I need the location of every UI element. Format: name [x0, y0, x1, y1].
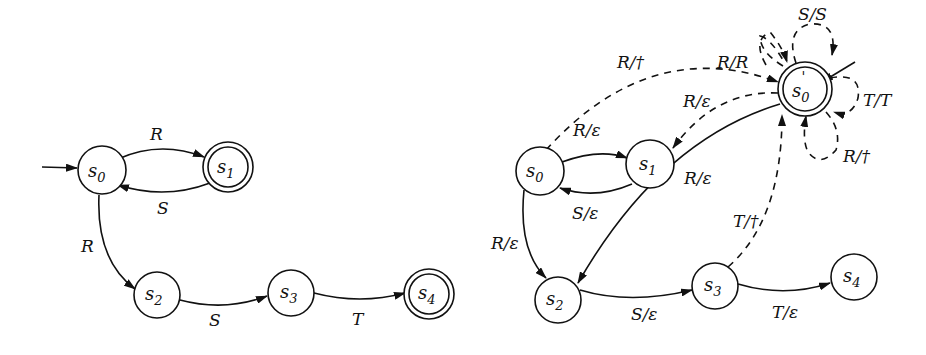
state-t-s0-prime: s0': [778, 62, 832, 116]
edge-t-s2-s3: [580, 290, 692, 298]
edge-label-s3-s4: T: [352, 309, 365, 329]
state-t-s1: s1: [626, 140, 674, 188]
state-s1: s1: [203, 142, 253, 192]
edge-label-loop-SS: S/S: [798, 4, 827, 24]
edge-s0-s1: [118, 149, 204, 159]
edge-label-loop-RR: R/R: [716, 52, 749, 72]
edge-label-s1-s0: S: [157, 198, 169, 218]
state-t-s3: s3: [692, 263, 738, 309]
state-s4: s4: [404, 269, 454, 319]
edge-t-s3-s4: [738, 283, 830, 291]
edge-t-s0-s1: [562, 154, 627, 162]
edge-s2-s3: [180, 296, 267, 305]
edge-t-s0p-s2: [578, 104, 780, 283]
edge-label-t-s2-s3: S/ε: [631, 304, 658, 324]
loop-s0p-RR: [760, 32, 787, 65]
edge-label-loop-Rdag: R/†: [842, 146, 871, 166]
state-t-s2: s2: [535, 277, 581, 323]
initial-arrow-s0: [42, 167, 77, 168]
state-t-s4: s4: [831, 254, 877, 300]
edge-s1-s0: [118, 183, 210, 192]
edge-label-t-s0p-s2: R/ε: [683, 168, 712, 188]
state-s0: s0: [78, 146, 126, 194]
edge-t-s1-s0: [560, 184, 632, 193]
state-s3: s3: [268, 270, 314, 316]
edge-s3-s4: [314, 293, 405, 299]
edge-label-t-s0-s2: R/ε: [490, 233, 519, 253]
original-automaton: R S R S T s0 s1 s2 s3: [42, 124, 454, 330]
state-t-s0: s0: [516, 147, 564, 195]
loop-s0p-SS: [793, 24, 833, 63]
automata-diagram: R S R S T s0 s1 s2 s3: [0, 0, 926, 355]
edge-label-t-s3-s0p: T/†: [733, 211, 759, 231]
edge-t-s0-s2: [523, 190, 546, 278]
edge-t-s3-s0p: [728, 115, 782, 267]
edge-label-t-s3-s4: T/ε: [772, 302, 798, 322]
edge-label-t-s0-s0p: R/†: [616, 52, 645, 72]
edge-label-loop-TT: T/T: [863, 90, 893, 110]
edge-label-t-s1-s0: S/ε: [572, 203, 599, 223]
edge-label-s0-s2: R: [80, 236, 94, 256]
edge-s0-s2: [99, 195, 135, 289]
transducer: R/ε S/ε R/ε S/ε T/ε R/† R/ε R/ε T/† R/R …: [490, 4, 893, 324]
loop-s0p-Rdag: [804, 112, 837, 160]
state-s2: s2: [134, 272, 180, 318]
edge-label-s2-s3: S: [209, 310, 221, 330]
edge-label-t-s0-s1: R/ε: [572, 120, 601, 140]
loop-s0p-TT: [830, 77, 858, 114]
edge-label-t-s0p-s1: R/ε: [682, 91, 711, 111]
edge-label-s0-s1: R: [149, 124, 163, 144]
